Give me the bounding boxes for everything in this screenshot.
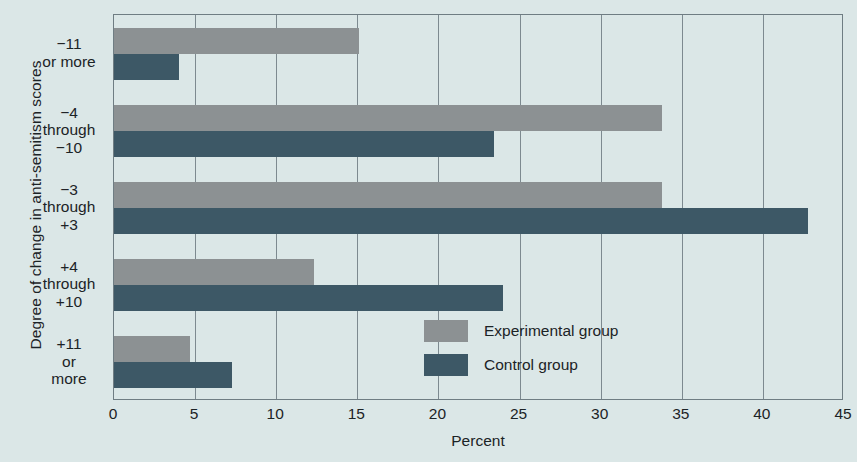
bar-control [114, 285, 503, 311]
bar-experimental [114, 336, 190, 362]
x-tick-label: 0 [109, 405, 118, 423]
category-label: +4 through +10 [30, 258, 108, 311]
chart-legend: Experimental groupControl group [424, 314, 618, 382]
x-tick-label: 15 [348, 405, 365, 423]
legend-label: Control group [484, 356, 578, 374]
bar-control [114, 208, 808, 234]
legend-item: Experimental group [424, 314, 618, 348]
bar-control [114, 362, 232, 388]
x-axis-tick-labels: 051015202530354045 [113, 405, 843, 427]
legend-item: Control group [424, 348, 618, 382]
legend-swatch-experimental [424, 320, 468, 342]
legend-swatch-control [424, 354, 468, 376]
bar-experimental [114, 105, 662, 131]
bar-experimental [114, 259, 314, 285]
bar-control [114, 54, 179, 80]
bar-control [114, 131, 494, 157]
gridline [682, 15, 683, 399]
x-tick-label: 5 [190, 405, 199, 423]
x-tick-label: 20 [429, 405, 446, 423]
category-label: +11 or more [30, 335, 108, 388]
category-label: −3 through +3 [30, 181, 108, 234]
legend-label: Experimental group [484, 322, 618, 340]
category-label: −4 through −10 [30, 104, 108, 157]
bar-experimental [114, 28, 359, 54]
x-tick-label: 10 [267, 405, 284, 423]
category-label: −11 or more [30, 35, 108, 70]
x-tick-label: 35 [672, 405, 689, 423]
x-axis-title: Percent [113, 432, 843, 450]
x-tick-label: 40 [753, 405, 770, 423]
gridline [763, 15, 764, 399]
category-label-list: −11 or more−4 through −10−3 through +3+4… [30, 14, 108, 400]
x-tick-label: 30 [591, 405, 608, 423]
x-tick-label: 45 [834, 405, 851, 423]
bar-chart: Degree of change in anti-semitism scores… [0, 0, 857, 462]
x-tick-label: 25 [510, 405, 527, 423]
bar-experimental [114, 182, 662, 208]
